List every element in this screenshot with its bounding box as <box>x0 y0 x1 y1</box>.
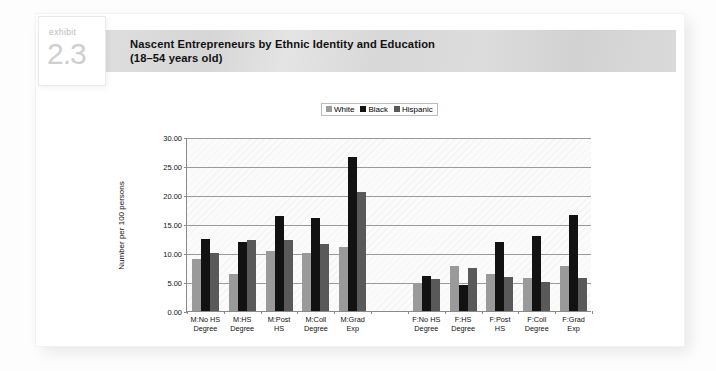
exhibit-number: 2.3 <box>47 37 86 71</box>
title-bar: Nascent Entrepreneurs by Ethnic Identity… <box>106 30 676 72</box>
x-tick-mark <box>297 311 298 314</box>
bar-group <box>371 138 408 311</box>
x-axis-label: M:Grad Exp <box>334 316 371 333</box>
x-tick-mark <box>592 311 593 314</box>
y-tick-label: 20.00 <box>163 192 182 201</box>
bar-white[interactable] <box>450 266 459 311</box>
bar-black[interactable] <box>238 242 247 311</box>
x-tick-mark <box>408 311 409 314</box>
y-axis-title: Number per 100 persons <box>114 138 128 312</box>
x-axis-label: F:No HS Degree <box>408 316 445 333</box>
legend-label: Black <box>368 105 388 114</box>
bar-group <box>187 138 224 311</box>
bar-black[interactable] <box>201 239 210 311</box>
title-line-1: Nascent Entrepreneurs by Ethnic Identity… <box>130 37 650 51</box>
bar-white[interactable] <box>523 278 532 311</box>
x-axis-label: F:Coll Degree <box>518 316 555 333</box>
plot-area: 0.005.0010.0015.0020.0025.0030.00 M:No H… <box>186 138 591 312</box>
exhibit-label: exhibit <box>49 27 76 37</box>
x-axis-label: M:No HS Degree <box>187 316 224 333</box>
bar-hispanic[interactable] <box>468 268 477 311</box>
page-root: exhibit 2.3 Nascent Entrepreneurs by Eth… <box>0 0 716 371</box>
bar-group <box>482 138 519 311</box>
legend-item-black[interactable]: Black <box>360 105 388 114</box>
x-tick-mark <box>518 311 519 314</box>
bar-white[interactable] <box>486 274 495 311</box>
x-tick-mark <box>371 311 372 314</box>
bars-layer <box>187 138 591 311</box>
x-tick-mark <box>445 311 446 314</box>
bar-hispanic[interactable] <box>431 279 440 311</box>
exhibit-badge: exhibit 2.3 <box>38 16 106 86</box>
bar-black[interactable] <box>459 285 468 311</box>
bar-white[interactable] <box>192 259 201 311</box>
x-tick-mark <box>261 311 262 314</box>
chart-container: WhiteBlackHispanic Number per 100 person… <box>116 94 598 344</box>
x-axis-label: F:HS Degree <box>445 316 482 333</box>
bar-black[interactable] <box>569 215 578 311</box>
legend-label: White <box>334 105 354 114</box>
x-tick-mark <box>187 311 188 314</box>
y-tick-label: 10.00 <box>163 250 182 259</box>
bar-white[interactable] <box>339 247 348 311</box>
bar-group <box>334 138 371 311</box>
y-axis-title-text: Number per 100 persons <box>117 181 126 270</box>
legend-label: Hispanic <box>402 105 433 114</box>
x-tick-mark <box>334 311 335 314</box>
bar-group <box>261 138 298 311</box>
bar-hispanic[interactable] <box>284 240 293 311</box>
x-axis-label: F:Grad Exp <box>555 316 592 333</box>
bar-white[interactable] <box>413 284 422 311</box>
bar-hispanic[interactable] <box>541 282 550 311</box>
x-tick-mark <box>224 311 225 314</box>
y-tick-label: 0.00 <box>167 308 182 317</box>
legend-swatch-icon <box>394 106 400 112</box>
bar-hispanic[interactable] <box>320 244 329 311</box>
bar-hispanic[interactable] <box>504 277 513 311</box>
bar-black[interactable] <box>275 216 284 311</box>
bar-black[interactable] <box>495 242 504 311</box>
chart-legend: WhiteBlackHispanic <box>321 103 438 116</box>
bar-white[interactable] <box>229 274 238 311</box>
bar-group <box>518 138 555 311</box>
x-tick-mark <box>482 311 483 314</box>
bar-black[interactable] <box>532 236 541 311</box>
legend-item-white[interactable]: White <box>326 105 354 114</box>
x-axis-label: M:HS Degree <box>224 316 261 333</box>
bar-black[interactable] <box>348 157 357 311</box>
bar-group <box>297 138 334 311</box>
legend-swatch-icon <box>360 106 366 112</box>
bar-group <box>408 138 445 311</box>
bar-group <box>445 138 482 311</box>
x-axis-label: F:Post HS <box>482 316 519 333</box>
y-tick-label: 25.00 <box>163 163 182 172</box>
bar-black[interactable] <box>311 218 320 311</box>
bar-group <box>555 138 592 311</box>
bar-white[interactable] <box>302 253 311 311</box>
bar-hispanic[interactable] <box>210 253 219 311</box>
y-tick-label: 15.00 <box>163 221 182 230</box>
bar-group <box>224 138 261 311</box>
x-axis-label: M:Post HS <box>261 316 298 333</box>
bar-white[interactable] <box>266 251 275 311</box>
legend-item-hispanic[interactable]: Hispanic <box>394 105 433 114</box>
legend-swatch-icon <box>326 106 332 112</box>
x-axis-label: M:Coll Degree <box>297 316 334 333</box>
bar-hispanic[interactable] <box>357 192 366 311</box>
bar-white[interactable] <box>560 266 569 311</box>
bar-hispanic[interactable] <box>247 240 256 311</box>
y-tick-label: 5.00 <box>167 279 182 288</box>
bar-hispanic[interactable] <box>578 278 587 311</box>
bar-black[interactable] <box>422 276 431 311</box>
title-line-2: (18–54 years old) <box>130 51 650 65</box>
page-title: Nascent Entrepreneurs by Ethnic Identity… <box>130 37 650 65</box>
y-tick-label: 30.00 <box>163 134 182 143</box>
x-tick-mark <box>555 311 556 314</box>
